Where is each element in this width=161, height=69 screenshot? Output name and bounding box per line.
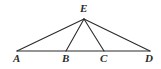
vertex-label-B: B [62, 53, 69, 64]
geometry-figure: A B C D E [0, 0, 161, 69]
vertex-label-E: E [80, 3, 87, 14]
vertex-label-D: D [145, 53, 153, 64]
vertex-label-C: C [100, 53, 107, 64]
segment-EA [17, 19, 84, 51]
vertex-label-A: A [13, 53, 20, 64]
